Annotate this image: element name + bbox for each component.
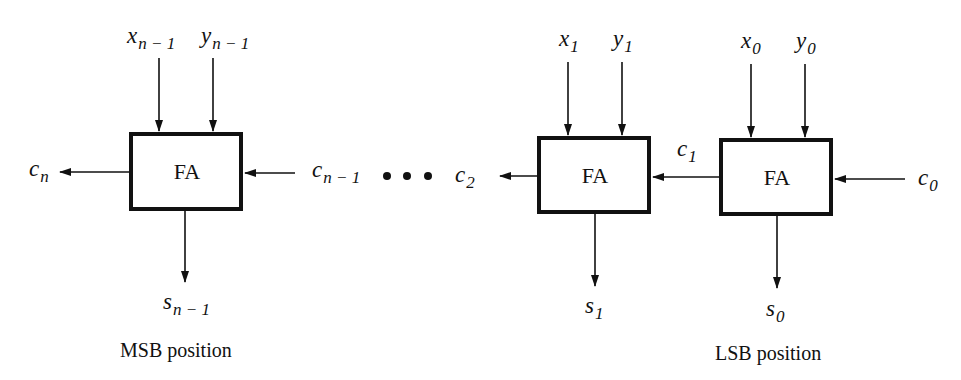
caption-lsb-position: LSB position (715, 343, 821, 363)
label-s-1: s1 (585, 294, 603, 322)
label-c-n: cn (29, 157, 49, 185)
label-y-1: y1 (613, 27, 633, 55)
fa-label-msb: FA (131, 161, 243, 183)
label-x-1: x1 (559, 27, 579, 55)
label-c-n-1: cn − 1 (312, 158, 360, 186)
label-c-2: c2 (455, 163, 475, 191)
label-x-n-1: xn − 1 (127, 24, 175, 52)
label-y-0: y0 (796, 29, 816, 57)
label-s-n-1: sn − 1 (163, 290, 210, 318)
label-c-0: c0 (918, 166, 938, 194)
fa-label-1: FA (539, 165, 651, 187)
ellipsis-dots (383, 172, 432, 180)
diagram-canvas (0, 0, 961, 380)
label-y-n-1: yn − 1 (201, 24, 249, 52)
label-s-0: s0 (766, 297, 784, 325)
fa-label-0: FA (721, 167, 833, 189)
label-c-1: c1 (677, 137, 697, 165)
label-x-0: x0 (741, 29, 761, 57)
caption-msb-position: MSB position (120, 340, 232, 360)
